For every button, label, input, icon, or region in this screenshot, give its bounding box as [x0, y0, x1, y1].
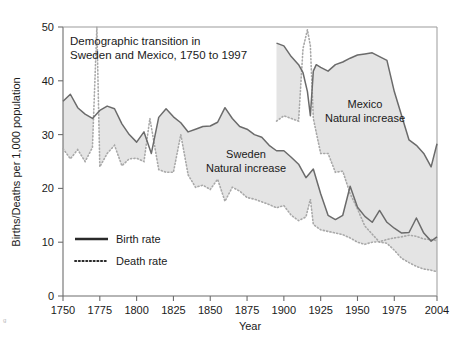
x-tick-label-1975: 1975 — [382, 304, 406, 316]
y-tick-label-50: 50 — [42, 21, 54, 33]
x-tick-label-1825: 1825 — [161, 304, 185, 316]
annotation-sweden-line-2: Natural increase — [206, 162, 286, 174]
y-tick-label-20: 20 — [42, 182, 54, 194]
y-tick-label-30: 30 — [42, 129, 54, 141]
annotation-mexico-line-2: Natural increase — [325, 112, 405, 124]
annotation-sweden-line-1: Sweden — [226, 148, 266, 160]
chart-title-line-2: Sweden and Mexico, 1750 to 1997 — [70, 49, 247, 61]
annotation-mexico-line-1: Mexico — [348, 98, 383, 110]
y-tick-label-40: 40 — [42, 75, 54, 87]
chart-canvas: 0102030405017501775180018251850187519001… — [0, 0, 461, 351]
x-tick-label-1800: 1800 — [124, 304, 148, 316]
chart-title-line-1: Demographic transition in — [70, 35, 200, 47]
x-tick-label-1925: 1925 — [308, 304, 332, 316]
y-axis-title: Births/Deaths per 1,000 population — [10, 77, 22, 246]
x-tick-label-1850: 1850 — [198, 304, 222, 316]
x-tick-label-1875: 1875 — [235, 304, 259, 316]
x-axis-title: Year — [239, 320, 262, 332]
x-tick-label-1900: 1900 — [272, 304, 296, 316]
legend-label-death-rate: Death rate — [116, 255, 167, 267]
x-tick-label-1775: 1775 — [88, 304, 112, 316]
x-tick-label-1950: 1950 — [345, 304, 369, 316]
x-tick-label-2004: 2004 — [425, 304, 449, 316]
scan-edge-artifact: g — [3, 317, 6, 323]
demographic-transition-figure: 0102030405017501775180018251850187519001… — [0, 0, 461, 351]
legend-label-birth-rate: Birth rate — [116, 233, 161, 245]
y-tick-label-0: 0 — [48, 290, 54, 302]
x-tick-label-1750: 1750 — [51, 304, 75, 316]
y-tick-label-10: 10 — [42, 236, 54, 248]
